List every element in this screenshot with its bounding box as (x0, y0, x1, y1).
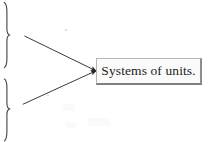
scan-smudge (88, 118, 110, 126)
arrow-to-lower-brace (23, 71, 96, 105)
diagram-canvas: Systems of units. (0, 0, 212, 142)
label-box-text: Systems of units. (101, 64, 195, 79)
arrow-to-upper-brace (25, 36, 97, 71)
lower-brace (4, 79, 9, 141)
upper-brace (4, 3, 9, 68)
label-box-systems-of-units[interactable]: Systems of units. (96, 58, 202, 85)
scan-speck-upper (65, 29, 67, 31)
scan-smudge (66, 122, 76, 128)
scan-speck-lower (47, 94, 49, 96)
scan-smudge (63, 104, 75, 111)
